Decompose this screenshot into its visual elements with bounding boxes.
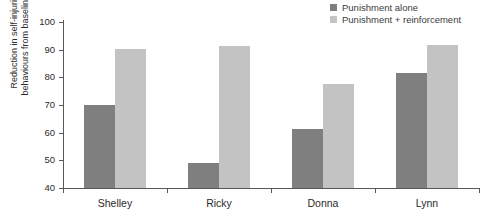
x-axis-line xyxy=(59,188,479,189)
y-axis-tick-label: 50 xyxy=(44,154,55,165)
bar xyxy=(84,105,115,188)
y-axis-tick: 60 xyxy=(59,133,64,134)
bar xyxy=(115,49,146,188)
bar xyxy=(396,73,427,188)
y-axis-tick: 70 xyxy=(59,105,64,106)
y-axis-tick: 50 xyxy=(59,160,64,161)
x-axis-category-label: Donna xyxy=(271,197,375,210)
y-axis-tick: 100 xyxy=(59,22,64,23)
y-axis-tick-label: 40 xyxy=(44,182,55,193)
plot-area: 100908070605040 ShelleyRickyDonnaLynn xyxy=(63,22,479,188)
y-axis-title: Reduction in self-injurious behaviours f… xyxy=(5,0,35,121)
legend-swatch-icon xyxy=(330,4,337,11)
y-axis-tick-label: 70 xyxy=(44,99,55,110)
bar xyxy=(427,45,458,188)
x-axis-category-label: Ricky xyxy=(167,197,271,210)
x-axis-category-label: Lynn xyxy=(375,197,479,210)
legend-item-label: Punishment alone xyxy=(342,2,418,13)
legend-item-punishment-alone: Punishment alone xyxy=(330,2,487,13)
bar xyxy=(219,46,250,188)
bar xyxy=(188,163,219,188)
y-axis-tick: 90 xyxy=(59,50,64,51)
x-axis-tick xyxy=(63,188,64,193)
bar xyxy=(292,129,323,188)
x-axis-category-label: Shelley xyxy=(63,197,167,210)
y-axis-tick-label: 100 xyxy=(39,16,55,27)
y-axis-tick-label: 90 xyxy=(44,44,55,55)
y-axis-title-text: Reduction in self-injurious behaviours f… xyxy=(9,0,32,96)
y-axis-tick: 80 xyxy=(59,77,64,78)
x-axis-tick xyxy=(479,188,480,193)
x-axis-tick xyxy=(375,188,376,193)
y-axis-tick-label: 80 xyxy=(44,71,55,82)
x-axis-tick xyxy=(167,188,168,193)
bar-chart-figure: Punishment alone Punishment + reinforcem… xyxy=(0,0,487,221)
x-axis-tick xyxy=(271,188,272,193)
y-axis-tick-label: 60 xyxy=(44,127,55,138)
bar xyxy=(323,84,354,188)
